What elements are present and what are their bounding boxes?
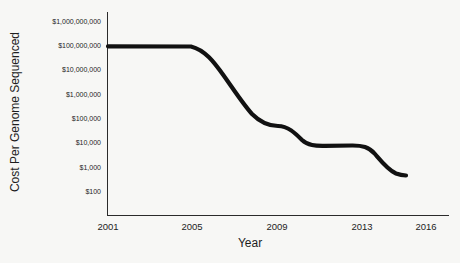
y-tick-label-1000000000: $1,000,000,000 xyxy=(52,18,101,25)
y-axis-title: Cost Per Genome Sequenced xyxy=(8,32,22,192)
x-axis-title: Year xyxy=(238,236,262,250)
y-tick-label-10000: $10,000 xyxy=(76,139,101,146)
y-tick-label-100: $100 xyxy=(85,188,101,195)
x-tick-label-2016: 2016 xyxy=(415,221,436,232)
chart-plot-area: Cost Per Genome Sequenced $1,000,000,000… xyxy=(0,0,460,263)
y-tick-label-1000000: $1,000,000 xyxy=(66,91,101,98)
x-tick-label-2013: 2013 xyxy=(351,221,372,232)
y-tick-label-1000: $1,000 xyxy=(80,164,102,171)
x-tick-label-2005: 2005 xyxy=(181,221,202,232)
x-tick-label-2001: 2001 xyxy=(97,221,118,232)
x-tick-label-2009: 2009 xyxy=(266,221,287,232)
y-tick-label-100000000: $100,000,000 xyxy=(58,42,101,49)
y-tick-label-100000: $100,000 xyxy=(72,115,101,122)
genome-cost-chart: Cost Per Genome Sequenced $1,000,000,000… xyxy=(0,0,460,263)
y-tick-label-10000000: $10,000,000 xyxy=(62,66,101,73)
cost-per-genome-line xyxy=(108,46,406,175)
